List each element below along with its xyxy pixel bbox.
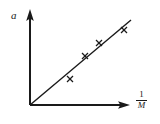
acceleration-vs-inverse-mass-chart: a 1 M: [0, 0, 160, 124]
y-axis-label: a: [11, 10, 17, 21]
data-point-marker: [121, 27, 127, 33]
x-axis-label-numerator: 1: [138, 90, 145, 99]
data-point-marker: [96, 40, 102, 46]
x-axis-label: 1 M: [136, 90, 147, 111]
best-fit-line: [30, 20, 131, 105]
data-point-marker: [67, 76, 73, 82]
x-axis-label-denominator: M: [137, 101, 147, 110]
